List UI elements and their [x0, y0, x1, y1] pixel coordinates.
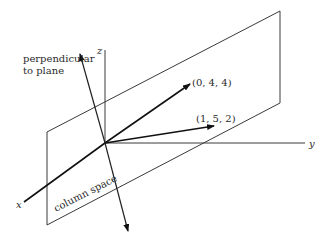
vector-1-5-2: [105, 126, 214, 143]
z-axis-label: z: [96, 45, 103, 56]
normal-line-up: [80, 54, 105, 143]
normal-label-line1: perpendicular: [23, 53, 95, 64]
vector-0-4-4: [105, 84, 190, 143]
y-axis-label: y: [308, 138, 315, 149]
vector-label-0-4-4: (0, 4, 4): [192, 77, 232, 88]
vector-diagram: z y x perpendicular to plane (0, 4, 4) (…: [0, 0, 329, 238]
normal-label-line2: to plane: [23, 65, 64, 76]
vector-label-1-5-2: (1, 5, 2): [196, 113, 236, 124]
x-axis-label: x: [16, 199, 22, 210]
